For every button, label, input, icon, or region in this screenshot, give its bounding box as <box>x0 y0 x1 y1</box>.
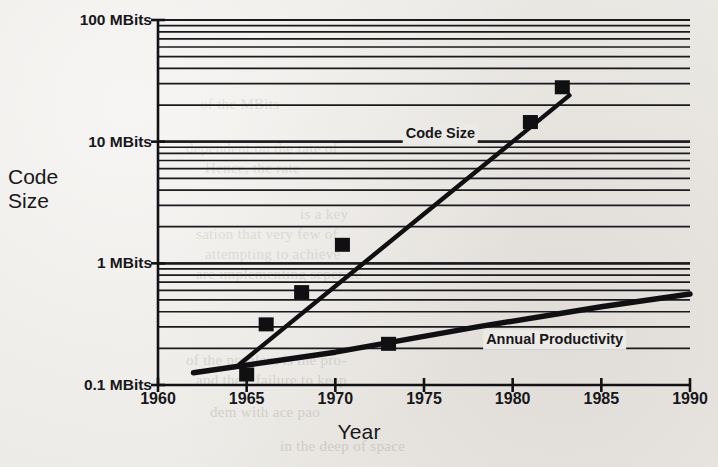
y-axis-title-line-2: Size <box>8 189 58 213</box>
x-axis-tick-label: 1980 <box>495 390 531 408</box>
x-axis-title: Year <box>0 420 718 444</box>
y-axis-tick-label: 1 MBits <box>97 254 152 272</box>
annotation-backdrops <box>403 124 626 349</box>
x-axis-tick-label: 1970 <box>318 390 354 408</box>
x-axis-tick-label: 1960 <box>140 390 176 408</box>
y-axis-tick-label: 100 MBits <box>80 11 152 29</box>
x-axis-tick-label: 1985 <box>584 390 620 408</box>
series-label-annual-productivity: Annual Productivity <box>486 331 623 347</box>
x-axis-tick-label: 1990 <box>672 390 708 408</box>
chart-figure: of the MBits dependent on the rate of He… <box>0 0 718 467</box>
y-axis-title: Code Size <box>8 165 58 212</box>
x-axis-tick-label: 1975 <box>406 390 442 408</box>
series-label-code-size: Code Size <box>406 125 475 141</box>
x-axis-tick-label: 1965 <box>229 390 265 408</box>
y-axis-tick-label: 10 MBits <box>88 133 152 151</box>
y-axis-title-line-1: Code <box>8 165 58 189</box>
